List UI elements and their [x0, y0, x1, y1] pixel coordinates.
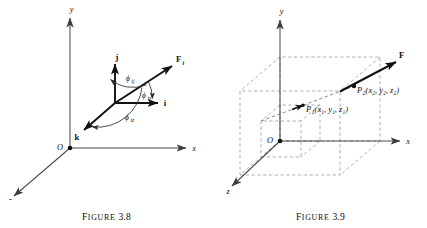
p2-edge-d — [240, 57, 280, 91]
origin-dot — [278, 139, 283, 144]
point-p1-dot — [301, 104, 304, 107]
axes-group-3-9 — [232, 20, 400, 186]
figure-3-8-caption-number: 3.8 — [118, 211, 131, 222]
z-axis-line — [14, 148, 70, 196]
angle-phi-ix-label-group: ϕ ix — [142, 91, 152, 101]
figure-3-9-caption: FIGURE 3.9 — [214, 211, 427, 222]
j-unit-vector-label: j — [115, 52, 119, 62]
point-p2-coords: (x₂, y₂, z₂) — [366, 86, 400, 95]
k-unit-vector-label: k — [75, 132, 80, 142]
point-p2-label: P — [356, 86, 362, 95]
y-axis-label: y — [69, 5, 74, 14]
figure-3-8-caption-word-rest: IGURE — [88, 213, 116, 222]
point-p1-label: P — [305, 105, 311, 114]
z-axis-label: z — [225, 187, 230, 196]
figure-3-8-drawing: y x z O j i k F i — [0, 0, 213, 200]
angle-phi-iz-label-group: ϕ iz — [125, 113, 135, 123]
angle-phi-iz-symbol: ϕ — [125, 113, 129, 122]
figure-3-8-panel: y x z O j i k F i — [0, 0, 213, 228]
point-p1-label-group: P 1 (x₁, y₁, z₁) — [305, 105, 348, 115]
axes-group-3-8 — [14, 18, 186, 196]
figure-3-9-caption-word-rest: IGURE — [302, 213, 330, 222]
angle-phi-ij-symbol: ϕ — [126, 74, 130, 83]
p1-edge-d — [261, 105, 280, 121]
point-p1-coords: (x₁, y₁, z₁) — [315, 105, 349, 114]
figure-3-9-panel: y x z O F P 2 — [214, 0, 427, 228]
k-unit-vector-arrow — [84, 103, 115, 130]
angle-phi-ij-label-group: ϕ ij — [126, 74, 135, 84]
point-p2-dot — [352, 84, 356, 88]
figure-3-9-drawing: y x z O F P 2 — [214, 0, 427, 200]
x-axis-label: x — [191, 144, 196, 153]
x-axis-label: x — [405, 137, 410, 146]
angle-phi-iz-subscript: iz — [130, 117, 134, 123]
point-p2-label-group: P 2 (x₂, y₂, z₂) — [356, 86, 399, 96]
force-vector-label: F — [399, 50, 404, 60]
angle-phi-ix-symbol: ϕ — [142, 91, 146, 100]
figure-3-9-caption-number: 3.9 — [332, 211, 345, 222]
z-axis-line — [232, 141, 280, 186]
i-unit-vector-label: i — [164, 98, 167, 108]
figure-page: y x z O j i k F i — [0, 0, 427, 228]
force-vector-label-group: F i — [176, 54, 185, 66]
y-axis-label: y — [279, 7, 284, 16]
point-p1-arrow — [292, 105, 303, 109]
force-vector-label: F — [176, 54, 181, 64]
angle-phi-iz-arc — [93, 88, 143, 128]
angle-phi-ij-subscript: ij — [131, 78, 134, 84]
origin-label: O — [57, 143, 63, 152]
dashed-construction-lines — [240, 57, 380, 175]
origin-label: O — [267, 136, 273, 145]
origin-dot — [68, 146, 73, 151]
p1-edge-b — [301, 141, 320, 157]
figure-3-8-caption: FIGURE 3.8 — [0, 211, 213, 222]
z-axis-label: z — [7, 196, 12, 200]
p2-back-face — [240, 91, 340, 175]
force-vector-subscript: i — [183, 60, 185, 66]
angle-phi-ix-subscript: ix — [147, 95, 151, 101]
p2-edge-b — [340, 141, 380, 175]
